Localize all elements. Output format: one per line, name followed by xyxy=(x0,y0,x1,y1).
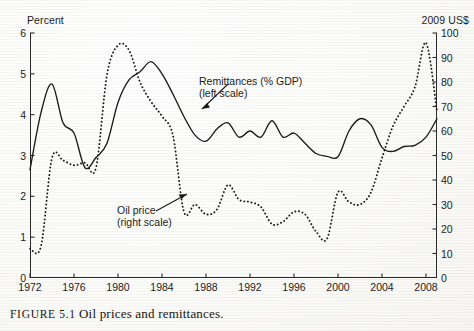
y-tick-label-left: 4 xyxy=(20,109,26,120)
figure-caption: FIGURE 5.1 Oil prices and remittances. xyxy=(10,306,224,322)
y-tick-label-left: 3 xyxy=(20,150,26,161)
annotation-leader-lines xyxy=(30,33,437,278)
annotation-oil-price-line2: (right scale) xyxy=(117,217,172,229)
x-tick-label: 2004 xyxy=(370,282,393,293)
y-tick-label-left: 2 xyxy=(20,191,26,202)
x-tick-label: 2008 xyxy=(414,282,437,293)
y-tick-label-right: 60 xyxy=(441,126,453,137)
figure-container: Percent 2009 US$ 0123456 010203040506070… xyxy=(0,0,474,331)
annotation-remittances: Remittances (% GDP) (left scale) xyxy=(199,76,302,99)
x-tick-label: 1996 xyxy=(282,282,305,293)
annotation-oil-price-line1: Oil price xyxy=(117,205,172,217)
x-tick-label: 1992 xyxy=(238,282,261,293)
y-tick-label-right: 0 xyxy=(441,273,447,284)
figure-caption-label: FIGURE 5.1 xyxy=(10,308,76,320)
annotation-remittances-line1: Remittances (% GDP) xyxy=(199,76,302,88)
y-tick-label-left: 5 xyxy=(20,69,26,80)
plot-area: 0123456 0102030405060708090100 197219761… xyxy=(30,33,437,278)
x-tick-label: 1980 xyxy=(106,282,129,293)
y-tick-label-right: 90 xyxy=(441,52,453,63)
y-tick-label-right: 40 xyxy=(441,175,453,186)
y-tick-label-right: 50 xyxy=(441,150,453,161)
x-tick-label: 2000 xyxy=(326,282,349,293)
annotation-remittances-line2: (left scale) xyxy=(199,88,302,100)
y-tick-label-left: 6 xyxy=(20,28,26,39)
y-tick-label-right: 70 xyxy=(441,101,453,112)
y-tick-label-right: 80 xyxy=(441,77,453,88)
y-tick-label-right: 30 xyxy=(441,199,453,210)
y-tick-label-left: 1 xyxy=(20,232,26,243)
figure-caption-text: Oil prices and remittances. xyxy=(79,306,224,321)
left-axis-title: Percent xyxy=(27,14,64,26)
right-axis-title: 2009 US$ xyxy=(421,14,469,26)
x-tick-label: 1988 xyxy=(194,282,217,293)
x-tick-label: 1972 xyxy=(18,282,41,293)
x-tick-label: 1976 xyxy=(62,282,85,293)
y-tick-label-right: 10 xyxy=(441,248,453,259)
y-tick-label-right: 20 xyxy=(441,224,453,235)
annotation-oil-price: Oil price (right scale) xyxy=(117,205,172,228)
x-tick-label: 1984 xyxy=(150,282,173,293)
y-tick-label-right: 100 xyxy=(441,28,459,39)
